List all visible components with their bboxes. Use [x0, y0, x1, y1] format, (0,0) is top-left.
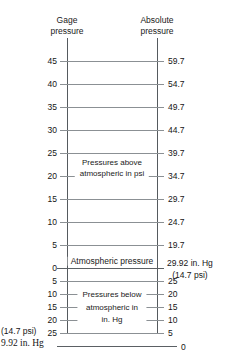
gage-tick-label: 20 — [36, 172, 57, 181]
gridline-gage-10 — [60, 222, 164, 223]
below-atmospheric-label: Pressures below atmospheric in in. Hg — [77, 289, 146, 327]
gridline-vacuum-25 — [60, 333, 164, 334]
above-atmospheric-label-line1: Pressures above — [77, 157, 147, 168]
vacuum-tick-label: 10 — [36, 290, 57, 299]
absolute-tick-label: 39.7 — [168, 149, 185, 158]
gage-pressure-axis-line — [67, 38, 68, 334]
absolute-tick-label: 59.7 — [168, 57, 185, 66]
vacuum-tick-label: 20 — [36, 316, 57, 325]
gridline-gage-30 — [60, 130, 164, 131]
absolute-pressure-axis-line — [157, 38, 158, 334]
full-vacuum-annotation: (14.7 psi) 9.92 in. Hg — [1, 326, 44, 349]
below-atmospheric-label-line1: Pressures below — [79, 289, 144, 302]
gage-tick-label-zero: 0 — [36, 264, 57, 273]
below-atmospheric-label-line3: in. Hg — [79, 314, 144, 327]
gridline-gage-5 — [60, 245, 164, 246]
gage-tick-label: 15 — [36, 195, 57, 204]
gage-tick-label: 5 — [36, 241, 57, 250]
absolute-tick-label: 24.7 — [168, 218, 185, 227]
gage-pressure-axis-title: Gage pressure — [50, 15, 83, 36]
absolute-tick-label: 49.7 — [168, 103, 185, 112]
atmospheric-absolute-in-hg: 29.92 in. Hg — [167, 258, 213, 270]
vacuum-tick-label: 15 — [36, 303, 57, 312]
gage-tick-label: 45 — [36, 57, 57, 66]
absolute-pressure-axis-title-line2: pressure — [140, 26, 173, 37]
absolute-low-tick-label: 5 — [168, 329, 173, 338]
below-atmospheric-label-line2: atmospheric in — [79, 302, 144, 315]
absolute-tick-label: 29.7 — [168, 195, 185, 204]
gage-tick-label: 25 — [36, 149, 57, 158]
atmospheric-pressure-label: Atmospheric pressure — [68, 257, 157, 266]
above-atmospheric-label: Pressures above atmospheric in psi — [75, 157, 149, 179]
gage-tick-label: 30 — [36, 126, 57, 135]
atmospheric-pressure-line — [57, 268, 164, 269]
absolute-low-tick-label: 20 — [168, 290, 177, 299]
full-vacuum-in-hg: 9.92 in. Hg — [1, 338, 44, 350]
absolute-zero-line — [57, 346, 177, 347]
gage-tick-label: 10 — [36, 218, 57, 227]
absolute-low-tick-label: 15 — [168, 303, 177, 312]
above-atmospheric-label-line2: atmospheric in psi — [77, 168, 147, 179]
absolute-low-tick-label: 25 — [168, 277, 177, 286]
gridline-vacuum-5 — [60, 281, 164, 282]
gage-tick-label: 40 — [36, 80, 57, 89]
absolute-low-tick-label: 10 — [168, 316, 177, 325]
absolute-tick-label: 34.7 — [168, 172, 185, 181]
absolute-pressure-axis-title: Absolute pressure — [140, 15, 173, 36]
absolute-zero-tick-label: 0 — [181, 343, 186, 352]
absolute-tick-label: 44.7 — [168, 126, 185, 135]
absolute-pressure-axis-title-line1: Absolute — [140, 15, 173, 26]
pressure-scale-diagram: Gage pressure Absolute pressure 45 40 35… — [0, 0, 239, 362]
gridline-gage-40 — [60, 84, 164, 85]
vacuum-tick-label: 5 — [36, 277, 57, 286]
absolute-tick-label: 19.7 — [168, 241, 185, 250]
gridline-gage-15 — [60, 199, 164, 200]
gridline-gage-35 — [60, 107, 164, 108]
gage-tick-label: 35 — [36, 103, 57, 112]
gridline-gage-45 — [60, 61, 164, 62]
gage-pressure-axis-title-line1: Gage — [50, 15, 83, 26]
absolute-tick-label: 54.7 — [168, 80, 185, 89]
full-vacuum-psi: (14.7 psi) — [1, 326, 44, 338]
gage-pressure-axis-title-line2: pressure — [50, 26, 83, 37]
gridline-gage-25 — [60, 153, 164, 154]
